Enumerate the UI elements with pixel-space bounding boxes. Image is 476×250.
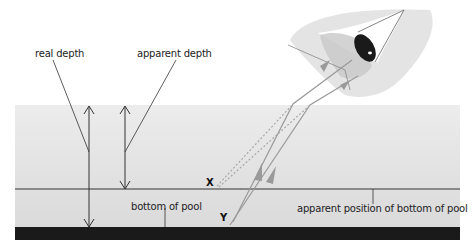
label-real-depth: real depth [35,48,84,59]
pool-bottom [15,227,460,240]
label-apparent-position: apparent position of bottom of pool [297,203,468,214]
label-apparent-depth: apparent depth [137,48,212,59]
pupil-highlight [368,52,372,55]
label-point-y: Y [220,212,227,223]
label-bottom-of-pool: bottom of pool [131,201,202,212]
label-point-x: X [206,177,214,188]
